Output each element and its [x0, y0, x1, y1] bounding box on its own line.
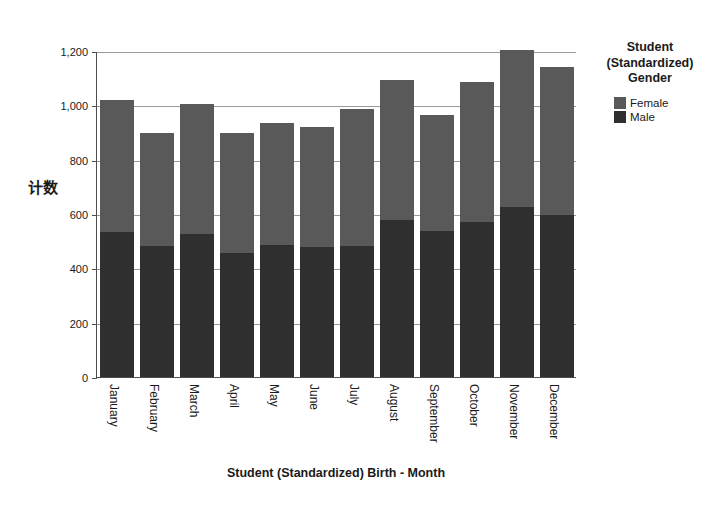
bar-group[interactable] — [380, 80, 415, 377]
x-tick-label: January — [107, 384, 121, 427]
bar-group[interactable] — [180, 104, 215, 377]
bar-segment-female[interactable] — [100, 100, 135, 232]
x-tick-label: June — [307, 384, 321, 410]
stacked-bar-chart: 计数 02004006008001,0001,200 JanuaryFebrua… — [0, 0, 720, 507]
x-tick-label: March — [187, 384, 201, 417]
bar-segment-male[interactable] — [340, 246, 375, 377]
y-tick-label: 800 — [70, 155, 88, 167]
legend-item[interactable]: Female — [614, 97, 714, 109]
y-tick-label: 200 — [70, 318, 88, 330]
bar-segment-male[interactable] — [100, 232, 135, 377]
x-tick-label: April — [227, 384, 241, 408]
legend: Student(Standardized)Gender FemaleMale — [596, 40, 714, 125]
legend-items: FemaleMale — [614, 97, 714, 123]
bar-segment-female[interactable] — [180, 104, 215, 234]
bar-group[interactable] — [300, 127, 335, 377]
y-axis-title: 计数 — [22, 180, 64, 196]
legend-swatch — [614, 97, 626, 109]
bar-segment-male[interactable] — [460, 222, 495, 377]
x-axis-title: Student (Standardized) Birth - Month — [96, 466, 576, 480]
bar-segment-female[interactable] — [540, 67, 575, 215]
x-tick-label: July — [347, 384, 361, 405]
bar-group[interactable] — [420, 115, 455, 377]
bar-segment-male[interactable] — [140, 246, 175, 377]
bar-segment-male[interactable] — [540, 215, 575, 377]
bar-segment-male[interactable] — [420, 231, 455, 377]
y-tick-label: 0 — [82, 372, 88, 384]
bar-segment-male[interactable] — [500, 207, 535, 377]
y-tick-label: 1,200 — [60, 46, 88, 58]
bar-segment-female[interactable] — [500, 50, 535, 207]
x-tick-label: February — [147, 384, 161, 432]
bar-group[interactable] — [340, 109, 375, 377]
legend-label: Male — [630, 111, 655, 123]
bar-group[interactable] — [460, 82, 495, 377]
legend-label: Female — [630, 97, 668, 109]
legend-title: Student(Standardized)Gender — [596, 40, 704, 87]
plot-area: 02004006008001,0001,200 — [96, 52, 576, 378]
bar-segment-male[interactable] — [300, 247, 335, 377]
bar-group[interactable] — [500, 50, 535, 377]
bar-group[interactable] — [220, 133, 255, 377]
bar-segment-female[interactable] — [260, 123, 295, 245]
bar-group[interactable] — [260, 123, 295, 377]
bar-group[interactable] — [540, 67, 575, 378]
bars-layer — [97, 52, 576, 377]
legend-item[interactable]: Male — [614, 111, 714, 123]
bar-segment-male[interactable] — [180, 234, 215, 377]
bar-segment-female[interactable] — [220, 133, 255, 253]
bar-segment-male[interactable] — [260, 245, 295, 377]
bar-segment-female[interactable] — [420, 115, 455, 230]
x-tick-label: May — [267, 384, 281, 407]
bar-segment-male[interactable] — [220, 253, 255, 377]
bar-segment-female[interactable] — [140, 133, 175, 246]
bar-segment-female[interactable] — [340, 109, 375, 245]
legend-swatch — [614, 111, 626, 123]
x-tick-label: September — [427, 384, 441, 443]
x-tick-label: December — [547, 384, 561, 439]
y-tick-mark — [92, 378, 97, 379]
bar-segment-male[interactable] — [380, 220, 415, 377]
y-tick-label: 1,000 — [60, 100, 88, 112]
bar-segment-female[interactable] — [460, 82, 495, 222]
x-tick-label: October — [467, 384, 481, 427]
y-tick-label: 400 — [70, 263, 88, 275]
x-tick-label: November — [507, 384, 521, 439]
x-tick-label: August — [387, 384, 401, 421]
bar-segment-female[interactable] — [380, 80, 415, 220]
bar-group[interactable] — [100, 100, 135, 377]
y-tick-label: 600 — [70, 209, 88, 221]
bar-group[interactable] — [140, 133, 175, 378]
bar-segment-female[interactable] — [300, 127, 335, 247]
